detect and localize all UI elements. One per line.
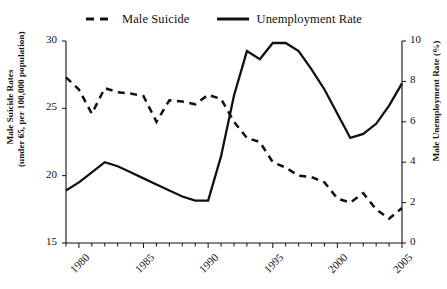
y-tick-label-right-8: 8 — [410, 73, 436, 85]
chart-container: Male Suicide Unemployment Rate Male Suic… — [0, 0, 447, 289]
y-tick-label-left-25: 25 — [31, 100, 57, 112]
y-tick-label-right-2: 2 — [410, 195, 436, 207]
plot-area — [0, 0, 447, 289]
y-tick-label-right-6: 6 — [410, 114, 436, 126]
y-tick-label-left-30: 30 — [31, 33, 57, 45]
y-tick-label-left-15: 15 — [31, 235, 57, 247]
y-tick-label-right-0: 0 — [410, 235, 436, 247]
series-line-unemployment-rate — [66, 43, 402, 201]
y-tick-label-right-10: 10 — [410, 33, 436, 45]
axis-tick-marks — [62, 41, 406, 248]
y-tick-label-left-20: 20 — [31, 168, 57, 180]
axis-lines — [66, 41, 402, 243]
y-tick-label-right-4: 4 — [410, 154, 436, 166]
